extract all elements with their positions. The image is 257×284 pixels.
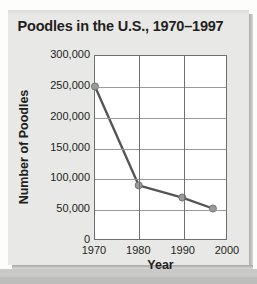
x-axis-tick-label: 1980: [115, 244, 161, 256]
x-axis-tick-label: 2000: [204, 244, 250, 256]
gridline-vertical: [184, 56, 185, 239]
plot-area: 1970: 250,0001980: 88,0001990: 68,000199…: [94, 55, 227, 240]
y-axis-title: Number of Poodles: [17, 67, 31, 227]
x-axis-tick-label: 1970: [71, 244, 117, 256]
chart-figure: Poodles in the U.S., 1970–1997 300,00025…: [0, 0, 257, 284]
gridline-horizontal: [95, 87, 226, 88]
chart-title: Poodles in the U.S., 1970–1997: [0, 18, 241, 34]
data-point-marker: 1990: 68,000: [179, 194, 186, 201]
gridline-horizontal: [95, 149, 226, 150]
gridline-horizontal: [95, 210, 226, 211]
gridline-vertical: [139, 56, 140, 239]
gridline-horizontal: [95, 179, 226, 180]
x-axis-tick-label: 1990: [160, 244, 206, 256]
gridline-horizontal: [95, 118, 226, 119]
series-line: [95, 87, 213, 209]
panel-sheen: [8, 10, 249, 16]
page-bottom-band-lower: [0, 277, 257, 284]
panel-shadow-right: [249, 14, 253, 268]
y-axis-tick-label: 300,000: [10, 48, 90, 60]
series-line-poodles: 1970: 250,0001980: 88,0001990: 68,000199…: [95, 56, 226, 239]
x-axis-title: Year: [94, 258, 227, 272]
